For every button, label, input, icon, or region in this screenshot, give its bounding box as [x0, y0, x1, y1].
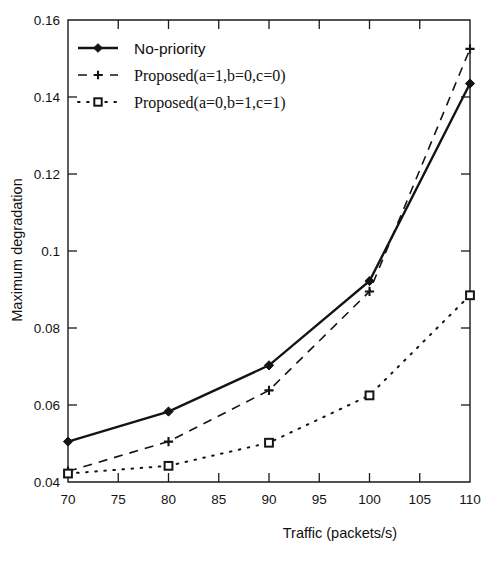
marker-open-square	[94, 98, 101, 105]
marker-open-square	[366, 391, 374, 399]
y-axis-title: Maximum degradation	[9, 178, 25, 321]
legend-label: Proposed(a=0,b=1,c=1)	[134, 94, 285, 112]
series-line	[68, 49, 470, 471]
x-tick-label: 90	[261, 492, 276, 507]
marker-plus	[264, 386, 273, 395]
marker-open-square	[64, 470, 72, 478]
y-axis-tick-labels: 0.040.060.080.10.120.140.16	[34, 13, 61, 490]
legend-label: Proposed(a=1,b=0,c=0)	[134, 67, 285, 85]
marker-open-square	[165, 462, 173, 470]
chart-legend: No-priorityProposed(a=1,b=0,c=0)Proposed…	[78, 40, 285, 112]
x-axis-title: Traffic (packets/s)	[283, 525, 397, 541]
marker-filled-diamond	[164, 407, 173, 416]
plot-frame	[68, 20, 470, 482]
x-tick-label: 105	[408, 492, 431, 507]
data-series	[64, 291, 474, 477]
x-tick-label: 75	[111, 492, 126, 507]
marker-filled-diamond	[63, 437, 72, 446]
y-tick-label: 0.1	[41, 244, 60, 259]
y-axis-ticks	[68, 97, 470, 405]
x-tick-label: 100	[358, 492, 381, 507]
maximum-degradation-line-chart: 0.040.060.080.10.120.140.16 707580859095…	[0, 0, 497, 563]
legend-entry: Proposed(a=1,b=0,c=0)	[78, 67, 285, 85]
marker-open-square	[466, 291, 474, 299]
x-tick-label: 70	[60, 492, 75, 507]
x-tick-label: 80	[161, 492, 176, 507]
y-tick-label: 0.04	[34, 475, 61, 490]
x-tick-label: 85	[211, 492, 226, 507]
y-tick-label: 0.08	[34, 321, 60, 336]
y-tick-label: 0.12	[34, 167, 60, 182]
legend-entry: No-priority	[78, 40, 206, 57]
marker-plus	[164, 437, 173, 446]
marker-filled-diamond	[465, 79, 474, 88]
marker-filled-diamond	[94, 44, 103, 53]
marker-plus	[94, 71, 103, 80]
x-tick-label: 95	[312, 492, 327, 507]
legend-label: No-priority	[134, 40, 206, 57]
y-tick-label: 0.06	[34, 398, 60, 413]
x-tick-label: 110	[459, 492, 481, 507]
y-tick-label: 0.14	[34, 90, 61, 105]
x-axis-tick-labels: 707580859095100105110	[60, 492, 480, 507]
chart-figure: 0.040.060.080.10.120.140.16 707580859095…	[0, 0, 497, 563]
y-tick-label: 0.16	[34, 13, 60, 28]
legend-entry: Proposed(a=0,b=1,c=1)	[78, 94, 285, 112]
marker-plus	[465, 44, 474, 53]
marker-open-square	[265, 439, 273, 447]
